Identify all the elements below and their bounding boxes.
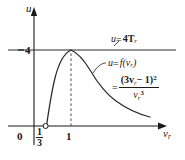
y-axis-label: u xyxy=(26,3,32,14)
leader-line-fn xyxy=(93,63,106,73)
numerator-minus-one: − 1 xyxy=(137,74,150,85)
function-equals: = xyxy=(113,59,120,69)
x-axis-label-subscript: r xyxy=(168,132,171,141)
denominator-exponent: 3 xyxy=(140,89,143,96)
annotation-expression: = (3vr− 1)2 vr3 xyxy=(112,74,159,101)
function-graph-figure: u vr 4 0 1 3 1 u=4Tr u=f(vr) = (3vr− 1)2… xyxy=(0,0,185,160)
annotation-equals: = xyxy=(116,35,123,45)
x-axis xyxy=(8,123,167,130)
fraction-denominator: 3 xyxy=(36,138,43,148)
expression-numerator: (3vr− 1)2 xyxy=(119,74,159,88)
annotation-horizontal-line: u=4Tr xyxy=(111,34,137,45)
annotation-function-label: u=f(vr) xyxy=(108,58,136,69)
x-axis-label: vr xyxy=(163,128,171,140)
x-tick-label-0: 0 xyxy=(17,131,23,142)
numerator-exponent: 2 xyxy=(153,74,156,81)
x-tick-label-one-third: 1 3 xyxy=(36,127,43,148)
expression-denominator: vr3 xyxy=(119,88,159,102)
fraction-one-third: 1 3 xyxy=(36,127,43,148)
annotation-symbol-subscript: r xyxy=(134,37,137,44)
open-endpoint-marker xyxy=(43,124,48,129)
y-axis xyxy=(31,7,37,145)
x-tick-label-1: 1 xyxy=(66,131,72,142)
function-paren-close: ) xyxy=(133,57,136,68)
expression-equals: = xyxy=(112,83,119,93)
expression-fraction: (3vr− 1)2 vr3 xyxy=(119,74,159,101)
y-tick-label-4: 4 xyxy=(25,45,31,56)
